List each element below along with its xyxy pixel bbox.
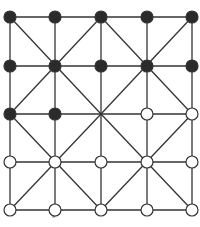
black-piece[interactable] [141, 11, 153, 23]
white-piece[interactable] [4, 204, 16, 216]
white-piece[interactable] [4, 156, 16, 168]
caption-mark: ″ [52, 214, 56, 225]
black-piece[interactable] [186, 11, 198, 23]
black-piece[interactable] [4, 108, 16, 120]
black-piece[interactable] [49, 108, 61, 120]
white-piece[interactable] [186, 156, 198, 168]
game-board [0, 0, 200, 227]
black-piece[interactable] [4, 11, 16, 23]
black-piece[interactable] [95, 11, 107, 23]
white-piece[interactable] [95, 204, 107, 216]
white-piece[interactable] [186, 204, 198, 216]
white-piece[interactable] [141, 156, 153, 168]
white-piece[interactable] [95, 156, 107, 168]
black-piece[interactable] [186, 60, 198, 72]
black-piece[interactable] [95, 60, 107, 72]
black-piece[interactable] [49, 11, 61, 23]
board-lines [10, 17, 192, 210]
white-piece[interactable] [141, 204, 153, 216]
white-piece[interactable] [49, 156, 61, 168]
black-piece[interactable] [141, 60, 153, 72]
black-piece[interactable] [4, 60, 16, 72]
white-piece[interactable] [141, 108, 153, 120]
black-piece[interactable] [49, 60, 61, 72]
white-piece[interactable] [186, 108, 198, 120]
